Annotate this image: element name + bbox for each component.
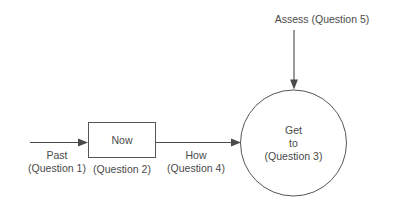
how-arrow-group <box>156 139 241 147</box>
process-diagram: Past (Question 1) Now (Question 2) How (… <box>0 0 395 210</box>
past-arrow-group <box>30 139 88 147</box>
assess-label: Assess (Question 5) <box>275 13 370 25</box>
goal-circle-line1: Get <box>285 124 302 136</box>
past-arrow-head <box>78 139 88 147</box>
now-box-sublabel: (Question 2) <box>93 163 151 175</box>
past-label: Past <box>46 149 67 161</box>
diagram-canvas: Past (Question 1) Now (Question 2) How (… <box>0 0 395 210</box>
goal-circle-line3: (Question 3) <box>265 150 323 162</box>
now-box-label: Now <box>111 134 132 146</box>
how-arrow-head <box>231 139 241 147</box>
goal-circle-line2: to <box>289 137 298 149</box>
how-label: How <box>185 149 206 161</box>
assess-arrow-group <box>290 30 298 90</box>
assess-arrow-head <box>290 80 298 90</box>
past-sublabel: (Question 1) <box>28 162 86 174</box>
how-sublabel: (Question 4) <box>167 162 225 174</box>
